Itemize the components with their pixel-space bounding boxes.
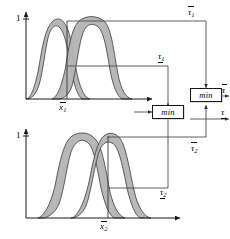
tau-lower-1-sub: 1 [161, 55, 164, 62]
min-block-lower[interactable]: min [152, 105, 184, 119]
upper-firing-wire-1 [67, 21, 206, 88]
tau-lower-2-sub: 2 [163, 191, 166, 198]
type2-fuzzy-firing-diagram: 1 1 x1 x2 τ1 τ1 τ2 τ2 min min τ τ [0, 0, 230, 239]
plot-antecedent-2 [23, 103, 206, 218]
label-lower-firing-2: τ2 [160, 188, 167, 198]
underbar-tau2 [160, 198, 165, 199]
label-lower-firing-1: τ1 [158, 52, 165, 62]
x1-sub: 1 [63, 106, 66, 113]
label-upper-firing-2: τ2 [191, 144, 198, 154]
underbar-tau1 [158, 62, 163, 63]
plot-antecedent-1 [23, 12, 206, 112]
x2-sub: 2 [104, 225, 107, 232]
underbar-output [221, 118, 226, 119]
output-label-upper: τ [222, 86, 225, 95]
diagram-canvas [0, 0, 230, 239]
ytick-label-one-bottom: 1 [16, 131, 21, 140]
output-label-lower: τ [221, 108, 224, 117]
label-upper-firing-1: τ1 [188, 8, 195, 18]
min-block-upper[interactable]: min [190, 88, 222, 102]
tau-upper-2-sub: 2 [194, 147, 197, 154]
tau-upper-1-sub: 1 [191, 11, 194, 18]
ytick-label-one-top: 1 [16, 14, 21, 23]
xaxis-label-x1: x1 [59, 103, 66, 113]
upper-firing-wire-2 [108, 126, 206, 137]
xaxis-label-x2: x2 [100, 222, 107, 232]
